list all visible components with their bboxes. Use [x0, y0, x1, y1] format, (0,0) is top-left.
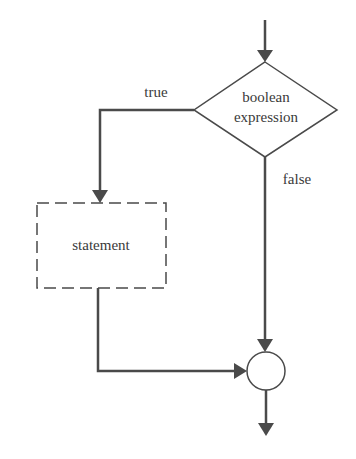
- decision-node: boolean expression: [194, 62, 337, 157]
- statement-node: statement: [37, 203, 166, 288]
- arrowhead-down-icon: [257, 50, 273, 62]
- entry-arrow: [257, 20, 273, 62]
- arrowhead-right-icon: [234, 363, 247, 379]
- exit-arrow: [258, 390, 274, 436]
- arrowhead-down-icon: [92, 190, 108, 203]
- true-label: true: [144, 84, 168, 100]
- false-branch-edge: false: [257, 157, 311, 352]
- true-branch-edge: true: [92, 84, 194, 203]
- decision-label-line2: expression: [234, 109, 299, 125]
- false-label: false: [283, 171, 312, 187]
- merge-circle: [247, 352, 285, 390]
- arrowhead-down-icon: [257, 339, 273, 352]
- statement-to-merge-edge: [98, 288, 247, 379]
- merge-node: [247, 352, 285, 390]
- if-statement-flowchart: boolean expression true statement false: [0, 0, 356, 459]
- statement-label: statement: [72, 237, 130, 253]
- decision-label-line1: boolean: [242, 89, 290, 105]
- arrowhead-down-icon: [258, 423, 274, 436]
